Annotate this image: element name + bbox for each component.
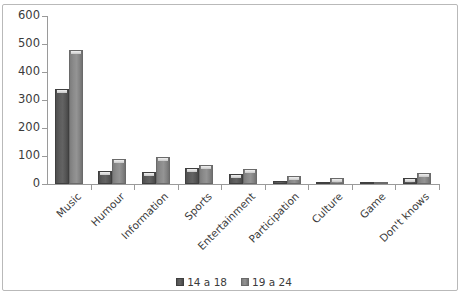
x-axis-tick (308, 185, 309, 190)
y-axis-tick-label: 600 (6, 10, 40, 22)
x-axis-tick (395, 185, 396, 190)
bar-highlight (245, 170, 255, 173)
legend-entry[interactable]: 14 a 18 (176, 277, 227, 288)
bar (330, 178, 344, 184)
x-axis-tick (91, 185, 92, 190)
bar (69, 50, 83, 184)
legend-label: 19 a 24 (252, 277, 292, 288)
bar-highlight (187, 169, 197, 172)
legend-entry[interactable]: 19 a 24 (241, 277, 292, 288)
bar (98, 171, 112, 184)
bar-highlight (144, 173, 154, 176)
legend-swatch-icon (241, 278, 249, 286)
x-axis-tick (352, 185, 353, 190)
x-axis-category-label-text: Humour (88, 190, 126, 228)
bar-highlight (100, 172, 110, 175)
x-axis-line (47, 184, 440, 185)
bar-highlight (57, 90, 67, 93)
bar (243, 169, 257, 184)
x-axis-category-label-text: Sports (182, 190, 214, 222)
bar-highlight (114, 160, 124, 163)
bar (374, 182, 388, 184)
y-axis-tick-label: 400 (6, 66, 40, 78)
y-axis-tick-label: 300 (6, 94, 40, 106)
x-axis-tick (265, 185, 266, 190)
x-axis-tick (178, 185, 179, 190)
y-axis-labels: 0100200300400500600 (2, 0, 40, 299)
bar (403, 178, 417, 184)
x-axis-tick (134, 185, 135, 190)
bar-highlight (419, 174, 429, 177)
bar (417, 173, 431, 184)
chart-figure: 0100200300400500600 MusicHumourInformati… (0, 0, 468, 299)
bar-highlight (158, 158, 168, 161)
chart-legend: 14 a 1819 a 24 (0, 277, 468, 288)
x-axis-tick (439, 185, 440, 190)
y-axis-tick-label: 200 (6, 122, 40, 134)
bar-highlight (289, 177, 299, 180)
bar (142, 172, 156, 184)
bar-highlight (231, 175, 241, 178)
bar (199, 165, 213, 184)
bar (185, 168, 199, 184)
bar (229, 174, 243, 184)
bar (360, 182, 374, 184)
legend-label: 14 a 18 (187, 277, 227, 288)
bar-highlight (405, 179, 415, 182)
bar (287, 176, 301, 184)
bar-highlight (201, 166, 211, 169)
bar-highlight (332, 179, 342, 182)
bar (112, 159, 126, 184)
x-axis-tick (221, 185, 222, 190)
y-axis-tick-label: 500 (6, 38, 40, 50)
bar (316, 182, 330, 184)
y-axis-tick-label: 0 (6, 178, 40, 190)
bar-highlight (71, 51, 81, 54)
x-axis-category-label-text: Game (358, 190, 389, 221)
bar (156, 157, 170, 184)
legend-swatch-icon (176, 278, 184, 286)
plot-area (47, 16, 439, 184)
bar (273, 181, 287, 184)
bar (55, 89, 69, 184)
x-axis-category-label-text: Culture (309, 190, 345, 226)
y-axis-tick-label: 100 (6, 150, 40, 162)
x-axis-category-label-text: Music (54, 190, 84, 220)
